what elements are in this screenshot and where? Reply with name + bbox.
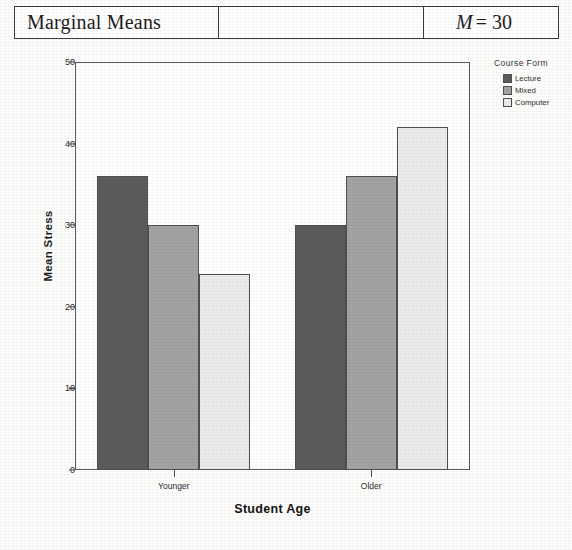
table-cell-row-label: Marginal Means bbox=[15, 7, 219, 38]
x-tick-label: Younger bbox=[158, 481, 189, 491]
y-tick-mark bbox=[69, 143, 75, 144]
x-tick-mark bbox=[371, 470, 372, 477]
legend-item: Mixed bbox=[503, 85, 572, 96]
bar bbox=[97, 176, 148, 470]
y-tick-mark bbox=[69, 306, 75, 307]
statistic-symbol: M bbox=[456, 11, 476, 34]
table-cell-empty bbox=[219, 7, 424, 38]
statistic-value: = 30 bbox=[476, 11, 512, 34]
bar bbox=[199, 274, 250, 470]
y-axis-title: Mean Stress bbox=[42, 186, 54, 306]
x-axis-title: Student Age bbox=[75, 502, 470, 516]
y-tick-mark bbox=[69, 225, 75, 226]
legend-label: Computer bbox=[515, 98, 549, 107]
bar-chart: Mean Stress 01020304050 YoungerOlder Stu… bbox=[0, 44, 572, 544]
legend-swatch bbox=[503, 86, 512, 95]
legend-items: LectureMixedComputer bbox=[503, 73, 572, 108]
legend: Course Form LectureMixedComputer bbox=[494, 58, 572, 109]
bar bbox=[346, 176, 397, 470]
bar bbox=[148, 225, 199, 470]
marginal-means-table-row: Marginal Means M= 30 bbox=[14, 6, 559, 39]
y-tick-mark bbox=[69, 469, 75, 470]
y-tick-mark bbox=[69, 388, 75, 389]
bar bbox=[397, 127, 448, 470]
table-cell-marginal-mean-value: M= 30 bbox=[424, 7, 558, 38]
x-tick-mark bbox=[174, 470, 175, 477]
legend-item: Computer bbox=[503, 97, 572, 108]
legend-label: Lecture bbox=[515, 74, 541, 83]
y-tick-mark bbox=[69, 61, 75, 62]
legend-swatch bbox=[503, 98, 512, 107]
legend-title: Course Form bbox=[494, 58, 572, 68]
legend-item: Lecture bbox=[503, 73, 572, 84]
legend-swatch bbox=[503, 74, 512, 83]
x-tick-label: Older bbox=[361, 481, 382, 491]
legend-label: Mixed bbox=[515, 86, 536, 95]
bar bbox=[295, 225, 346, 470]
